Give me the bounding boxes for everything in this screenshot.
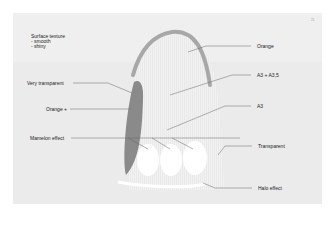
label-a3-a35: A3 + A3,5 — [257, 72, 279, 78]
label-transparent: Transparent — [258, 143, 285, 149]
mamelon-2 — [160, 144, 182, 176]
label-orange-plus: Orange + — [46, 106, 67, 112]
label-a3: A3 — [257, 103, 263, 109]
label-halo-effect: Halo effect — [258, 185, 282, 191]
label-very-transparent: Very transparent — [27, 80, 64, 86]
label-mamelon-effect: Mamelon effect — [30, 135, 64, 141]
label-orange: Orange — [257, 43, 274, 49]
mamelon-3 — [183, 141, 207, 175]
tooth-diagram — [0, 0, 334, 229]
